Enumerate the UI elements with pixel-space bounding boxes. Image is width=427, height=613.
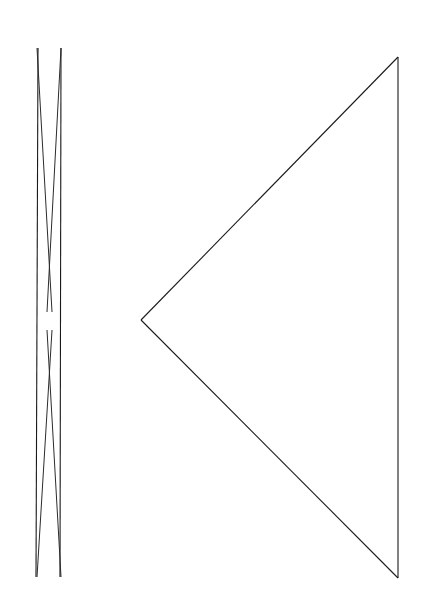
drawing-canvas bbox=[0, 0, 427, 613]
line-drawing-figure bbox=[0, 0, 427, 613]
canvas-background bbox=[0, 0, 427, 613]
